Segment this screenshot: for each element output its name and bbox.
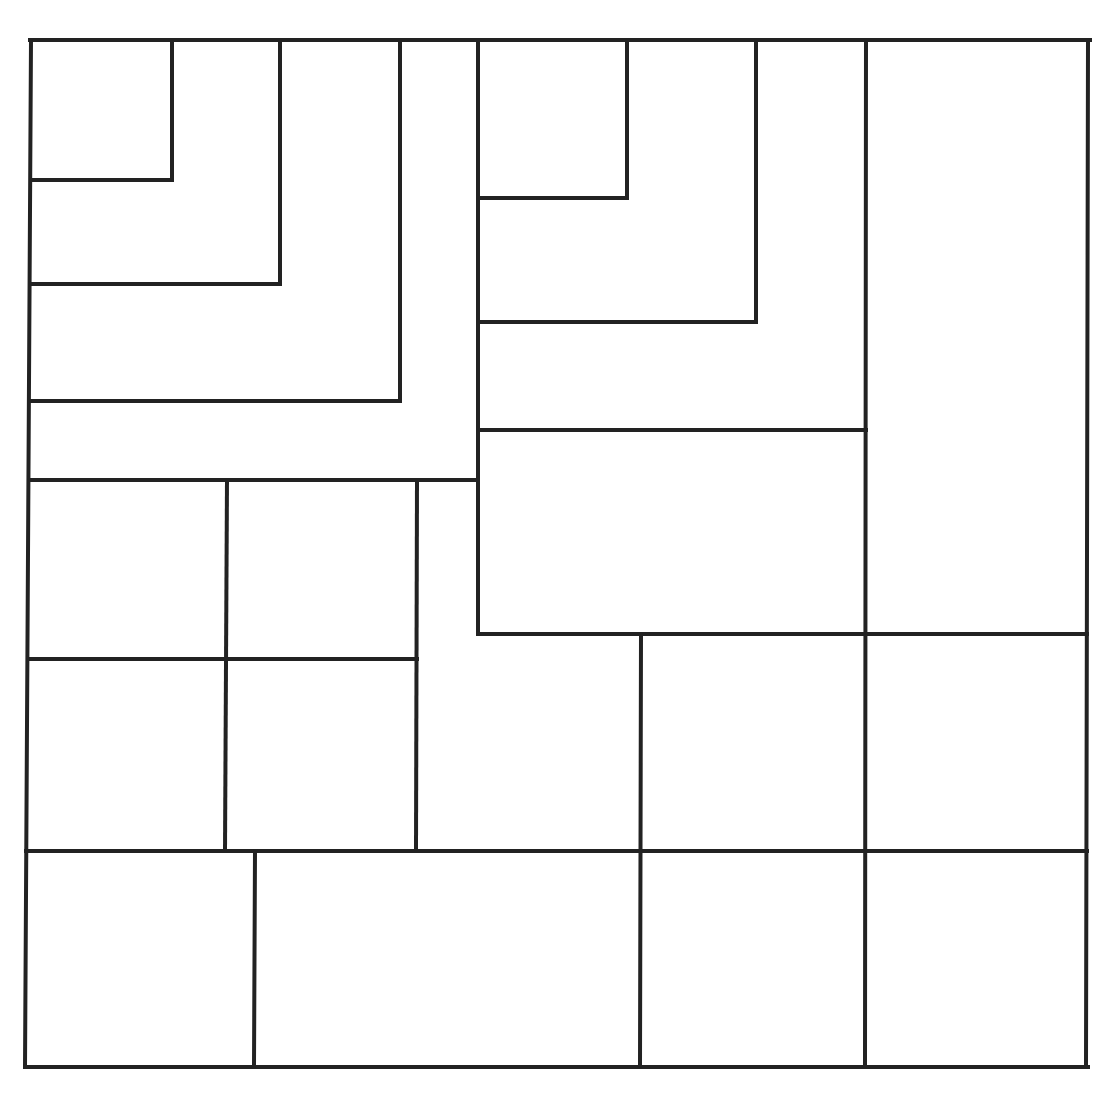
line-left-grid-v2	[416, 480, 417, 850]
line-outer-right	[1086, 40, 1088, 1067]
rectangle-subdivision-diagram	[0, 0, 1111, 1096]
line-low-left-vertical	[254, 851, 255, 1066]
diagram-background	[0, 0, 1111, 1096]
line-left-grid-v1	[225, 480, 227, 850]
line-right-col-vertical	[865, 40, 866, 1066]
